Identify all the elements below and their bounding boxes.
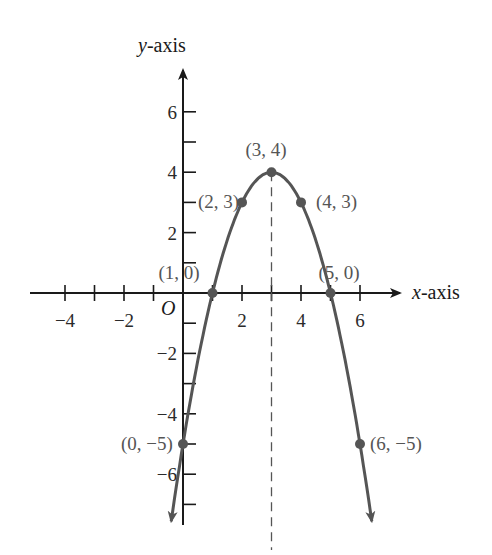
point-label: (6, −5): [370, 433, 422, 455]
parabola-curve-right: [272, 172, 372, 521]
parabola-chart: −4−2246 642−2−4−6 (0, −5)(1, 0)(2, 3)(3,…: [0, 0, 492, 555]
point-label: (2, 3): [198, 191, 239, 213]
y-tick-label: −2: [157, 343, 177, 364]
x-tick-label: −2: [114, 310, 134, 331]
y-tick-label: 4: [168, 162, 178, 183]
data-point: [296, 197, 306, 207]
x-tick-label: 2: [237, 310, 247, 331]
data-point: [267, 167, 277, 177]
data-point: [355, 439, 365, 449]
x-axis-title: x-axis: [411, 281, 460, 303]
y-axis-title: y-axis: [136, 34, 186, 57]
parabola-curve-left: [171, 172, 271, 521]
point-label: (4, 3): [316, 191, 357, 213]
point-label: (3, 4): [246, 139, 287, 161]
data-point: [208, 288, 218, 298]
origin-label: O: [161, 297, 175, 319]
y-tick-label: −4: [157, 404, 178, 425]
y-tick-label: −6: [157, 464, 177, 485]
data-point: [326, 288, 336, 298]
x-tick-label: −4: [55, 310, 76, 331]
y-tick-label: 6: [168, 102, 178, 123]
data-point: [178, 439, 188, 449]
y-tick-label: 2: [168, 223, 178, 244]
x-tick-label: 4: [296, 310, 306, 331]
x-tick-labels: −4−2246: [55, 310, 365, 331]
point-label: (1, 0): [159, 262, 200, 284]
x-tick-label: 6: [355, 310, 365, 331]
point-label: (5, 0): [319, 262, 360, 284]
point-label: (0, −5): [121, 433, 173, 455]
